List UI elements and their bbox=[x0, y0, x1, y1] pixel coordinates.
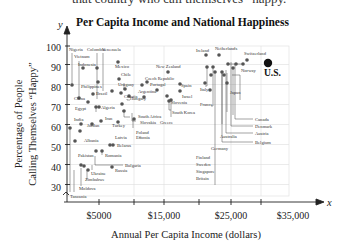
svg-text:Egypt: Egypt bbox=[75, 106, 87, 111]
y-tick-labels: 30 40 50 60 70 80 90 100 bbox=[46, 42, 61, 193]
svg-text:Vietnam: Vietnam bbox=[74, 54, 90, 59]
svg-text:India: India bbox=[74, 117, 83, 122]
svg-text:Ukraine: Ukraine bbox=[91, 171, 106, 176]
svg-text:Bulgaria: Bulgaria bbox=[125, 163, 141, 168]
svg-text:South Korea: South Korea bbox=[172, 110, 195, 115]
svg-text:Czech Republic: Czech Republic bbox=[145, 76, 174, 81]
svg-text:South Africa: South Africa bbox=[138, 114, 161, 119]
svg-text:Austria: Austria bbox=[255, 131, 269, 136]
svg-text:Hungary: Hungary bbox=[130, 96, 147, 101]
svg-text:Denmark: Denmark bbox=[255, 124, 273, 129]
svg-text:U.S.: U.S. bbox=[264, 68, 281, 78]
y-axis-letter: y bbox=[57, 19, 63, 30]
svg-text:Pakistan: Pakistan bbox=[78, 153, 94, 158]
svg-text:90: 90 bbox=[51, 62, 61, 73]
svg-text:Zimbabwe: Zimbabwe bbox=[85, 177, 105, 182]
svg-text:Jordan: Jordan bbox=[87, 123, 100, 128]
svg-text:Albania: Albania bbox=[84, 138, 99, 143]
svg-text:40: 40 bbox=[51, 162, 61, 173]
svg-text:30: 30 bbox=[51, 182, 61, 193]
svg-text:Iran: Iran bbox=[105, 116, 113, 121]
svg-text:Finland: Finland bbox=[196, 155, 211, 160]
svg-text:Switzerland: Switzerland bbox=[244, 51, 267, 56]
svg-text:$25,000: $25,000 bbox=[215, 210, 248, 221]
svg-text:Slovakia: Slovakia bbox=[140, 120, 156, 125]
svg-text:Percentage of People: Percentage of People bbox=[13, 79, 24, 168]
svg-text:Calling Themselves “Happy”: Calling Themselves “Happy” bbox=[27, 62, 38, 186]
svg-text:Chile: Chile bbox=[121, 72, 131, 77]
svg-text:$35,000: $35,000 bbox=[277, 210, 310, 221]
svg-text:Italy: Italy bbox=[200, 87, 209, 92]
svg-text:Germany: Germany bbox=[211, 146, 229, 151]
svg-text:70: 70 bbox=[51, 102, 61, 113]
svg-text:Australia: Australia bbox=[220, 134, 237, 139]
svg-text:Belarus: Belarus bbox=[117, 143, 131, 148]
svg-text:China: China bbox=[74, 96, 85, 101]
svg-text:Netherlands: Netherlands bbox=[215, 46, 237, 51]
data-points bbox=[68, 53, 249, 172]
svg-text:Mexico: Mexico bbox=[115, 64, 130, 69]
svg-text:Uruguay: Uruguay bbox=[118, 82, 135, 87]
svg-text:New Zealand: New Zealand bbox=[156, 64, 181, 69]
svg-text:Greece: Greece bbox=[160, 120, 173, 125]
svg-text:Spain: Spain bbox=[181, 83, 192, 88]
svg-text:Ireland: Ireland bbox=[196, 48, 210, 53]
svg-text:Belgium: Belgium bbox=[255, 140, 271, 145]
svg-text:Indonesia: Indonesia bbox=[78, 62, 96, 67]
svg-text:Singapore: Singapore bbox=[196, 169, 215, 174]
svg-text:Russia: Russia bbox=[115, 168, 127, 173]
svg-text:Norway: Norway bbox=[241, 68, 257, 73]
svg-text:50: 50 bbox=[51, 142, 61, 153]
svg-text:Sweden: Sweden bbox=[196, 162, 211, 167]
svg-text:Israel: Israel bbox=[182, 94, 193, 99]
svg-text:Moldova: Moldova bbox=[79, 186, 96, 191]
svg-text:Slovenia: Slovenia bbox=[171, 100, 187, 105]
svg-text:Algeria: Algeria bbox=[101, 105, 115, 110]
svg-text:$5000: $5000 bbox=[87, 210, 112, 221]
svg-text:Nigeria: Nigeria bbox=[69, 47, 83, 52]
svg-text:Venezuela: Venezuela bbox=[102, 47, 121, 52]
svg-text:Japan: Japan bbox=[230, 90, 241, 95]
svg-text:$15,000: $15,000 bbox=[148, 210, 181, 221]
svg-text:Estonia: Estonia bbox=[136, 135, 150, 140]
svg-text:Britain: Britain bbox=[196, 176, 209, 181]
svg-text:France: France bbox=[200, 102, 213, 107]
svg-text:Tanzania: Tanzania bbox=[70, 194, 87, 199]
scatter-plot: y x 30 40 50 60 70 80 90 100 $5000 $15,0… bbox=[0, 0, 344, 246]
x-axis-letter: x bbox=[326, 197, 332, 208]
svg-text:Brazil: Brazil bbox=[96, 91, 108, 96]
svg-text:80: 80 bbox=[51, 82, 61, 93]
us-highlight-point bbox=[264, 59, 272, 67]
svg-text:Portugal: Portugal bbox=[150, 82, 166, 87]
x-tick-labels: $5000 $15,000 $25,000 $35,000 bbox=[87, 210, 310, 221]
svg-text:60: 60 bbox=[51, 122, 61, 133]
svg-text:Canada: Canada bbox=[255, 117, 269, 122]
svg-text:Argentina: Argentina bbox=[138, 89, 156, 94]
svg-text:Philippines: Philippines bbox=[81, 84, 102, 89]
svg-text:100: 100 bbox=[46, 42, 61, 53]
y-axis-label: Percentage of People Calling Themselves … bbox=[13, 62, 38, 186]
svg-text:Romania: Romania bbox=[105, 153, 122, 158]
svg-text:Latvia: Latvia bbox=[115, 135, 127, 140]
x-axis-label: Annual Per Capita Income (dollars) bbox=[111, 229, 261, 241]
svg-text:Turkey: Turkey bbox=[112, 123, 126, 128]
